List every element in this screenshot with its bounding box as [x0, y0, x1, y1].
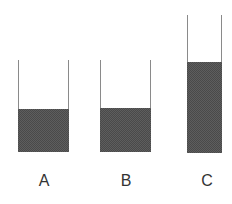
container-b — [100, 60, 151, 152]
container-c — [187, 15, 222, 153]
container-b-liquid — [100, 108, 151, 152]
container-a — [18, 60, 69, 152]
container-c-liquid — [187, 62, 222, 153]
label-b: B — [111, 172, 141, 190]
label-a: A — [29, 172, 59, 190]
container-a-liquid — [18, 109, 69, 152]
label-c: C — [192, 172, 222, 190]
